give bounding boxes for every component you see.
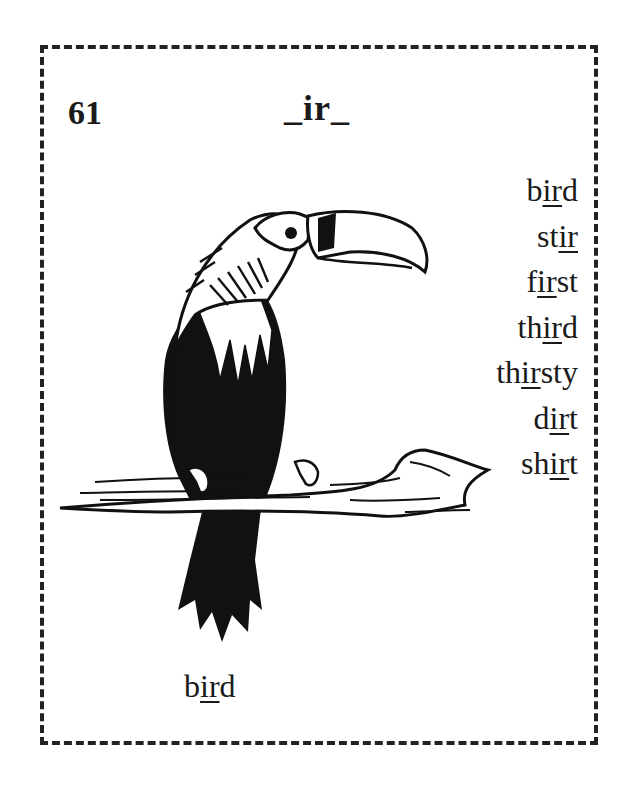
word-item: thirsty [496,350,578,396]
toucan-illustration [55,200,495,650]
word-item: stir [496,214,578,260]
phonics-pattern: _ir_ [284,90,350,126]
word-item: first [496,259,578,305]
picture-caption: bird [184,670,236,702]
word-item: bird [496,168,578,214]
word-list: bird stir first third thirsty dirt shirt [496,168,578,487]
word-item: dirt [496,396,578,442]
word-item: shirt [496,441,578,487]
card-number: 61 [68,96,102,130]
word-item: third [496,305,578,351]
